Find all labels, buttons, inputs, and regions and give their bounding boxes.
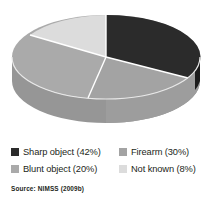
pie-svg: [0, 4, 222, 136]
pie-chart-figure: Sharp object (42%) Firearm (30%) Blunt o…: [0, 0, 222, 209]
legend-label-blunt-object: Blunt object (20%): [23, 165, 97, 174]
legend-label-not-known: Not known (8%): [131, 165, 196, 174]
legend-item-blunt-object: Blunt object (20%): [11, 165, 119, 174]
legend-item-not-known: Not known (8%): [119, 165, 217, 174]
legend-label-sharp-object: Sharp object (42%): [23, 148, 101, 157]
legend-swatch-icon-sharp-object: [11, 148, 19, 156]
legend-item-sharp-object: Sharp object (42%): [11, 148, 119, 157]
pie-top-face: [12, 15, 201, 99]
source-note: Source: NIMSS (2009b): [11, 185, 84, 192]
legend-item-firearm: Firearm (30%): [119, 148, 217, 157]
pie-chart-graphic: [0, 4, 222, 136]
legend-swatch-icon-firearm: [119, 148, 127, 156]
chart-legend: Sharp object (42%) Firearm (30%) Blunt o…: [11, 144, 217, 178]
legend-swatch-icon-not-known: [119, 165, 127, 173]
legend-label-firearm: Firearm (30%): [131, 148, 189, 157]
legend-swatch-icon-blunt-object: [11, 165, 19, 173]
